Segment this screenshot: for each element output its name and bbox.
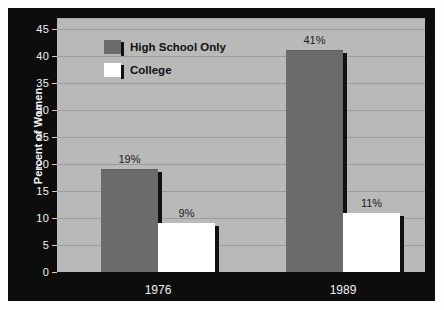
bar-1976-high-school[interactable]: [101, 169, 158, 272]
gridline: [57, 137, 425, 138]
legend-item-college: College: [104, 63, 226, 77]
y-axis-tick-label: 15: [9, 186, 49, 197]
x-axis-tick-label-1989: 1989: [298, 284, 388, 296]
bar-body: [158, 223, 215, 272]
y-axis-tick-label: 5: [9, 240, 49, 251]
y-axis-tick-label: 20: [9, 159, 49, 170]
plot-top-edge: [57, 18, 425, 19]
chart-page: Percent of Women 051015202530354045 19%9…: [0, 0, 444, 310]
bar-shadow: [215, 226, 219, 272]
gridline: [57, 110, 425, 111]
y-axis-tick-mark: [52, 272, 57, 273]
y-axis-tick-label: 25: [9, 132, 49, 143]
legend-swatch-college-icon: [104, 63, 121, 77]
bar-body: [286, 50, 343, 272]
legend-label-college: College: [130, 64, 172, 76]
bar-value-label: 9%: [157, 208, 217, 219]
x-axis-tick-label-1976: 1976: [113, 284, 203, 296]
bar-value-label: 19%: [100, 154, 160, 165]
legend-swatch-high-school-icon: [104, 40, 121, 54]
y-axis-tick-label: 0: [9, 267, 49, 278]
legend-label-high-school: High School Only: [130, 41, 226, 53]
bar-shadow: [400, 216, 404, 272]
legend-item-high-school: High School Only: [104, 40, 226, 54]
bar-body: [343, 213, 400, 272]
plot-area: 19%9%41%11% High School Only College: [57, 18, 425, 272]
gridline: [57, 29, 425, 30]
bar-1989-college[interactable]: [343, 213, 400, 272]
y-axis-tick-label: 10: [9, 213, 49, 224]
y-axis-tick-label: 35: [9, 78, 49, 89]
bar-body: [101, 169, 158, 272]
chart-legend: High School Only College: [104, 40, 226, 77]
y-axis-tick-label: 30: [9, 105, 49, 116]
bar-1989-high-school[interactable]: [286, 50, 343, 272]
y-axis-tick-label: 40: [9, 51, 49, 62]
chart-frame: Percent of Women 051015202530354045 19%9…: [8, 8, 435, 301]
bar-value-label: 11%: [342, 198, 402, 209]
bar-value-label: 41%: [285, 35, 345, 46]
bar-1976-college[interactable]: [158, 223, 215, 272]
gridline: [57, 83, 425, 84]
y-axis-tick-label: 45: [9, 24, 49, 35]
